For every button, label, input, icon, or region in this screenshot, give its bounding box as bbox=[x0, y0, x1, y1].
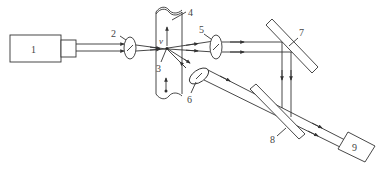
label-2: 2 bbox=[111, 28, 116, 39]
vertical-beams bbox=[282, 42, 291, 117]
collimating-lens: 5 bbox=[199, 24, 222, 59]
label-9: 9 bbox=[352, 142, 357, 153]
velocity-arrows: v bbox=[159, 27, 168, 93]
beams-5-to-7 bbox=[222, 42, 292, 52]
label-7: 7 bbox=[299, 27, 304, 38]
optical-diagram: 1 2 4 v 3 bbox=[0, 0, 384, 171]
detector: 9 bbox=[338, 132, 375, 162]
incoming-beams bbox=[76, 44, 124, 51]
label-1: 1 bbox=[31, 44, 36, 55]
label-8: 8 bbox=[270, 134, 275, 145]
collimating-lens-scatter: 6 bbox=[187, 65, 212, 105]
beam-splitter: 8 bbox=[250, 84, 305, 145]
focusing-lens: 2 bbox=[111, 28, 136, 59]
label-3: 3 bbox=[156, 63, 161, 74]
laser-source: 1 bbox=[10, 35, 76, 62]
scattered-beams-to-5 bbox=[168, 41, 214, 52]
label-5: 5 bbox=[199, 24, 204, 35]
label-4: 4 bbox=[188, 7, 193, 18]
label-6: 6 bbox=[187, 94, 192, 105]
velocity-label: v bbox=[159, 36, 163, 46]
measurement-point: 3 bbox=[156, 47, 169, 74]
mirror: 7 bbox=[266, 19, 318, 73]
scattered-beams-to-6 bbox=[168, 49, 190, 68]
